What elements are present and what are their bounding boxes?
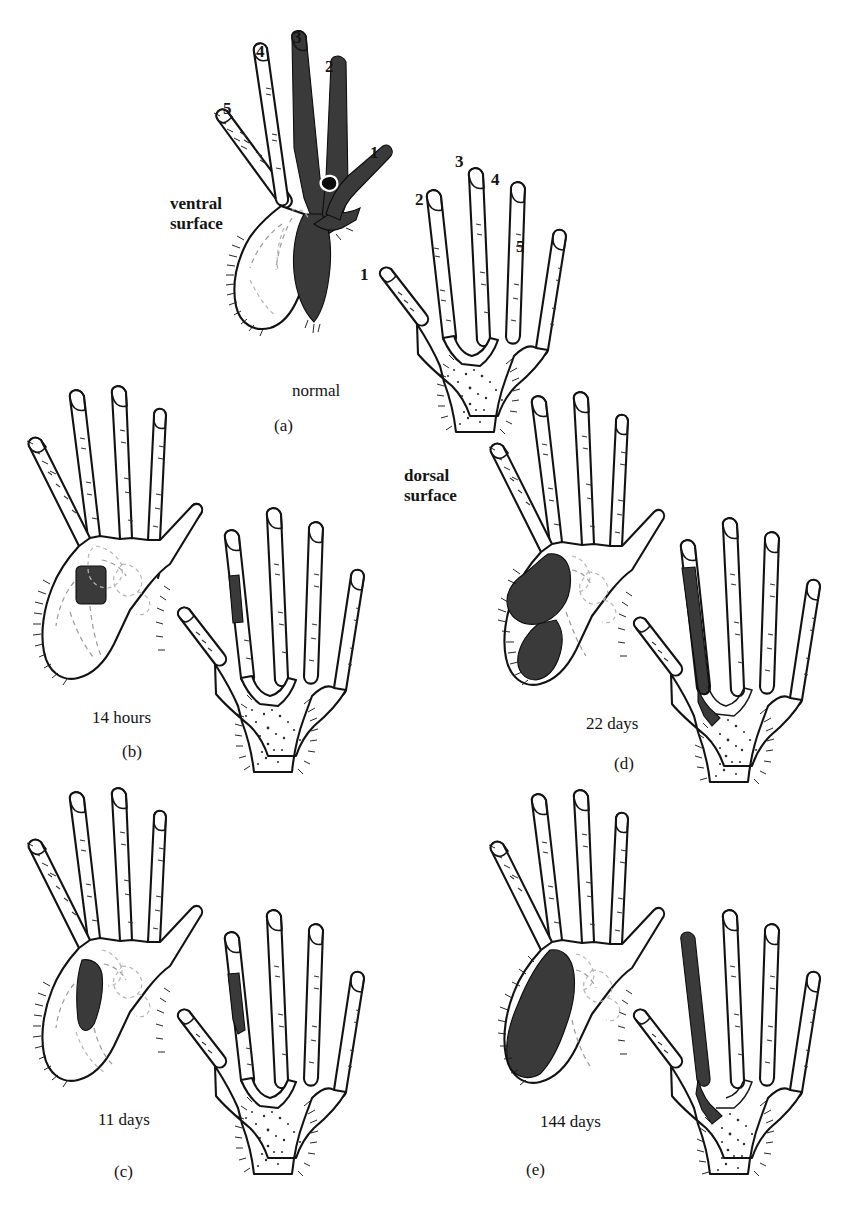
panel-c-dorsal-hand bbox=[168, 902, 383, 1177]
digit-label-dorsal-2: 2 bbox=[415, 190, 424, 210]
figure-canvas: ventral surface dorsal surface normal (a… bbox=[0, 0, 857, 1215]
digit-label-ventral-5: 5 bbox=[223, 99, 232, 119]
panel-d: 22 days (d) bbox=[418, 392, 857, 792]
panel-b: 14 hours (b) bbox=[0, 382, 430, 782]
panel-d-label: (d) bbox=[614, 754, 634, 774]
digit-label-dorsal-4: 4 bbox=[491, 170, 500, 190]
panel-d-time-label: 22 days bbox=[586, 714, 638, 734]
panel-b-dorsal-hand bbox=[168, 500, 383, 775]
panel-e-time-label: 144 days bbox=[540, 1112, 601, 1132]
panel-e: 144 days (e) bbox=[418, 782, 857, 1202]
panel-c-label: (c) bbox=[114, 1162, 133, 1182]
digit-label-dorsal-3: 3 bbox=[455, 152, 464, 172]
panel-a-ventral-surface-label: ventral surface bbox=[170, 194, 223, 234]
digit-label-ventral-4: 4 bbox=[256, 42, 265, 62]
panel-d-dorsal-hand bbox=[624, 510, 839, 790]
panel-b-label: (b) bbox=[122, 742, 142, 762]
panel-e-dorsal-hand bbox=[624, 902, 839, 1187]
digit-label-dorsal-5: 5 bbox=[516, 237, 525, 257]
panel-b-time-label: 14 hours bbox=[92, 708, 151, 728]
panel-c: 11 days (c) bbox=[0, 784, 430, 1184]
digit-label-ventral-2: 2 bbox=[325, 57, 334, 77]
panel-e-label: (e) bbox=[526, 1160, 545, 1180]
digit-label-dorsal-1: 1 bbox=[360, 265, 369, 285]
panel-c-time-label: 11 days bbox=[98, 1110, 150, 1130]
digit-label-ventral-3: 3 bbox=[293, 28, 302, 48]
digit-label-ventral-1: 1 bbox=[370, 143, 379, 163]
